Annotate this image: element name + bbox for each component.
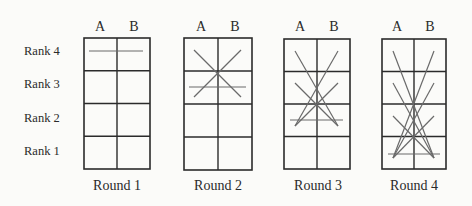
rank-grid-diagram [0, 0, 472, 206]
round-4-panel [382, 39, 446, 169]
round-3-panel [284, 39, 350, 169]
round-1-panel [84, 38, 150, 169]
round-2-panel [184, 38, 252, 170]
